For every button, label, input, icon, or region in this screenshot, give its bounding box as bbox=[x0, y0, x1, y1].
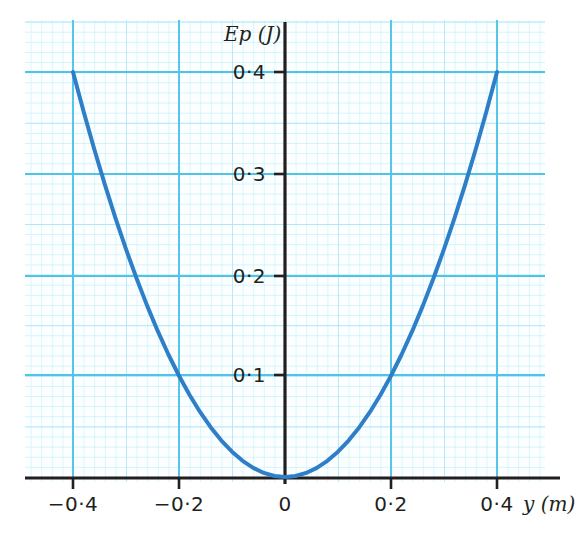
x-tick-label-0-2: 0·2 bbox=[352, 492, 430, 516]
y-tick-label-0-2: 0·2 bbox=[198, 264, 266, 288]
x-tick-label-neg-0-2: −0·2 bbox=[137, 492, 221, 516]
x-tick-label-0: 0 bbox=[258, 492, 312, 516]
graph-figure: 0·4 0·3 0·2 0·1 −0·4 −0·2 0 0·2 0·4 Ep (… bbox=[0, 0, 585, 538]
plot-area bbox=[0, 0, 585, 538]
y-tick-label-0-3: 0·3 bbox=[198, 162, 266, 186]
x-axis-title: y (m) bbox=[523, 492, 575, 516]
y-axis-title: Ep (J) bbox=[224, 22, 281, 46]
y-tick-label-0-1: 0·1 bbox=[198, 363, 266, 387]
x-tick-label-neg-0-4: −0·4 bbox=[31, 492, 115, 516]
y-tick-label-0-4: 0·4 bbox=[198, 60, 266, 84]
